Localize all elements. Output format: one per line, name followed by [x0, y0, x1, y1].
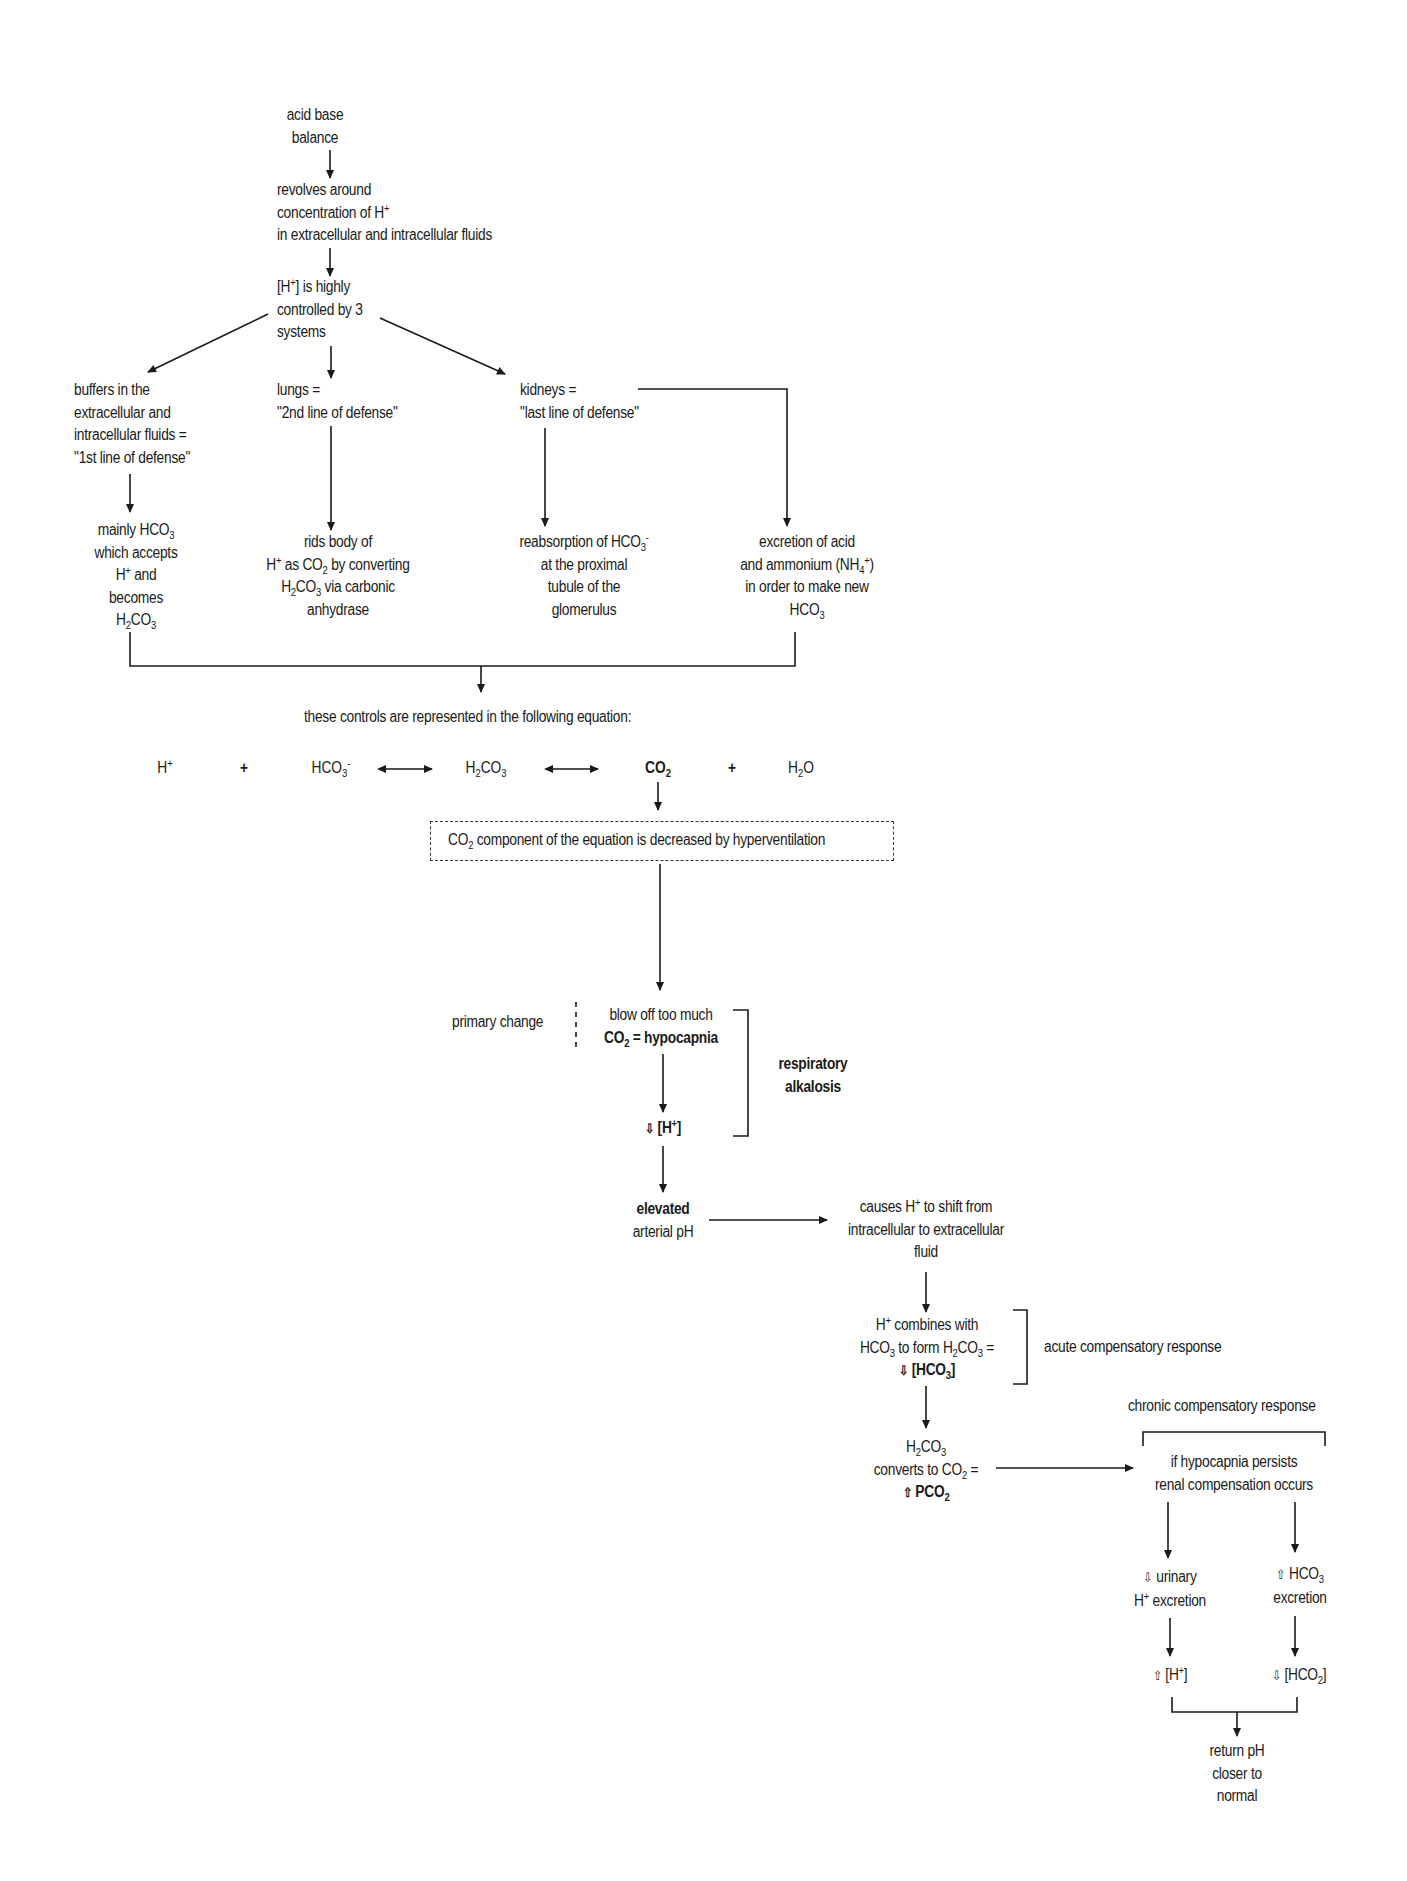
- node-line: CO2 = hypocapnia: [598, 1027, 724, 1050]
- node-excretion-acid: excretion of acid and ammonium (NH4+) in…: [725, 531, 888, 621]
- node-kidneys: kidneys = "last line of defense": [520, 379, 639, 424]
- node-line: respiratory: [774, 1053, 851, 1076]
- down-arrow-icon: ⇩: [1143, 1570, 1152, 1585]
- node-acid-base-balance: acid base balance: [269, 104, 360, 149]
- node-line: fluid: [840, 1241, 1012, 1264]
- node-line: reabsorption of HCO3-: [507, 531, 662, 554]
- node-line: revolves around: [277, 179, 492, 202]
- node-primary-change: primary change: [452, 1011, 543, 1034]
- equation-term-h2o: H2O: [786, 757, 815, 779]
- node-line: which accepts: [84, 542, 187, 565]
- node-elevated-ph: elevated arterial pH: [624, 1198, 701, 1243]
- up-arrow-icon: ⇧: [1153, 1668, 1162, 1683]
- node-line: lungs =: [277, 379, 398, 402]
- node-line: causes H+ to shift from: [840, 1196, 1012, 1219]
- node-mainly-hco3: mainly HCO3 which accepts H+ and becomes…: [84, 519, 187, 632]
- node-line: alkalosis: [774, 1076, 851, 1099]
- up-arrow-icon: ⇧: [1276, 1567, 1285, 1582]
- node-co2-decreased: CO2 component of the equation is decreas…: [448, 829, 825, 852]
- node-line: acute compensatory response: [1044, 1336, 1221, 1359]
- node-lungs: lungs = "2nd line of defense": [277, 379, 398, 424]
- node-line: excretion: [1261, 1587, 1338, 1610]
- node-line: balance: [269, 127, 360, 150]
- node-line: H2CO3 via carbonic: [261, 576, 416, 599]
- node-line: buffers in the: [74, 379, 190, 402]
- node-line: excretion of acid: [725, 531, 888, 554]
- node-line: rids body of: [261, 531, 416, 554]
- node-line: closer to: [1203, 1763, 1272, 1786]
- node-line: and ammonium (NH4+): [725, 554, 888, 577]
- node-line: intracellular fluids =: [74, 424, 190, 447]
- node-line: acid base: [269, 104, 360, 127]
- node-line: becomes: [84, 587, 187, 610]
- down-arrow-icon: ⇩: [1272, 1668, 1281, 1683]
- node-blow-off: blow off too much CO2 = hypocapnia: [598, 1004, 724, 1049]
- equation-term-co2: CO2: [643, 757, 674, 779]
- node-line: return pH: [1203, 1740, 1272, 1763]
- node-converts: H2CO3 converts to CO2 = ⇧ PCO2: [866, 1436, 986, 1505]
- node-line: tubule of the: [507, 576, 662, 599]
- node-line: ⇩ [HCO3]: [854, 1359, 1000, 1383]
- node-line: H+ excretion: [1127, 1590, 1213, 1613]
- node-chronic-response: chronic compensatory response: [1128, 1395, 1316, 1418]
- node-line: converts to CO2 =: [866, 1459, 986, 1482]
- node-decreased-hco2: ⇩ [HCO2]: [1260, 1664, 1337, 1688]
- node-line: H2CO3: [866, 1436, 986, 1459]
- node-line: ⇩ [H+]: [633, 1117, 693, 1141]
- node-line: kidneys =: [520, 379, 639, 402]
- node-line: HCO3: [725, 599, 888, 622]
- node-line: in order to make new: [725, 576, 888, 599]
- node-line: at the proximal: [507, 554, 662, 577]
- node-line: "last line of defense": [520, 402, 639, 425]
- node-line: ⇧ HCO3: [1261, 1563, 1338, 1587]
- node-combines: H+ combines with HCO3 to form H2CO3 = ⇩ …: [854, 1314, 1000, 1383]
- node-revolves-around: revolves around concentration of H+ in e…: [277, 179, 492, 247]
- node-line: chronic compensatory response: [1128, 1395, 1316, 1418]
- node-line: if hypocapnia persists: [1148, 1451, 1320, 1474]
- node-line: normal: [1203, 1785, 1272, 1808]
- node-line: glomerulus: [507, 599, 662, 622]
- node-increased-h: ⇧ [H+]: [1142, 1664, 1197, 1688]
- node-line: primary change: [452, 1011, 543, 1034]
- node-controls-equation: these controls are represented in the fo…: [304, 706, 631, 729]
- node-causes-shift: causes H+ to shift from intracellular to…: [840, 1196, 1012, 1264]
- node-line: ⇩ urinary: [1127, 1566, 1213, 1590]
- node-line: CO2 component of the equation is decreas…: [448, 829, 825, 852]
- node-line: "1st line of defense": [74, 447, 190, 470]
- node-acute-response: acute compensatory response: [1044, 1336, 1221, 1359]
- node-hco3-excretion: ⇧ HCO3 excretion: [1261, 1563, 1338, 1609]
- node-line: anhydrase: [261, 599, 416, 622]
- node-line: elevated: [624, 1198, 701, 1221]
- equation-term-h2co3: H2CO3: [464, 757, 509, 779]
- node-line: in extracellular and intracellular fluid…: [277, 224, 492, 247]
- node-line: H+ and: [84, 564, 187, 587]
- node-renal-compensation: if hypocapnia persists renal compensatio…: [1148, 1451, 1320, 1496]
- equation-term-hco3: HCO3-: [310, 757, 353, 779]
- node-decreased-h: ⇩ [H+]: [633, 1117, 693, 1141]
- equation-plus: +: [237, 757, 251, 779]
- node-line: blow off too much: [598, 1004, 724, 1027]
- node-line: controlled by 3: [277, 299, 363, 322]
- node-respiratory-alkalosis: respiratory alkalosis: [774, 1053, 851, 1098]
- node-line: [H+] is highly: [277, 276, 363, 299]
- equation-plus: +: [725, 757, 739, 779]
- node-buffers: buffers in the extracellular and intrace…: [74, 379, 190, 469]
- node-line: HCO3 to form H2CO3 =: [854, 1337, 1000, 1360]
- node-line: mainly HCO3: [84, 519, 187, 542]
- node-urinary-excretion: ⇩ urinary H+ excretion: [1127, 1566, 1213, 1612]
- equation-term-h: H+: [152, 757, 178, 779]
- node-line: renal compensation occurs: [1148, 1474, 1320, 1497]
- node-reabsorption: reabsorption of HCO3- at the proximal tu…: [507, 531, 662, 621]
- acid-base-flowchart: acid base balance revolves around concen…: [0, 0, 1407, 1881]
- node-line: intracellular to extracellular: [840, 1219, 1012, 1242]
- up-arrow-icon: ⇧: [903, 1485, 912, 1500]
- node-line: ⇧ [H+]: [1142, 1664, 1197, 1688]
- node-line: H2CO3: [84, 609, 187, 632]
- node-line: H+ combines with: [854, 1314, 1000, 1337]
- node-rids-body: rids body of H+ as CO2 by converting H2C…: [261, 531, 416, 621]
- node-line: concentration of H+: [277, 202, 492, 225]
- node-line: extracellular and: [74, 402, 190, 425]
- node-line: ⇩ [HCO2]: [1260, 1664, 1337, 1688]
- node-line: these controls are represented in the fo…: [304, 706, 631, 729]
- node-line: systems: [277, 321, 363, 344]
